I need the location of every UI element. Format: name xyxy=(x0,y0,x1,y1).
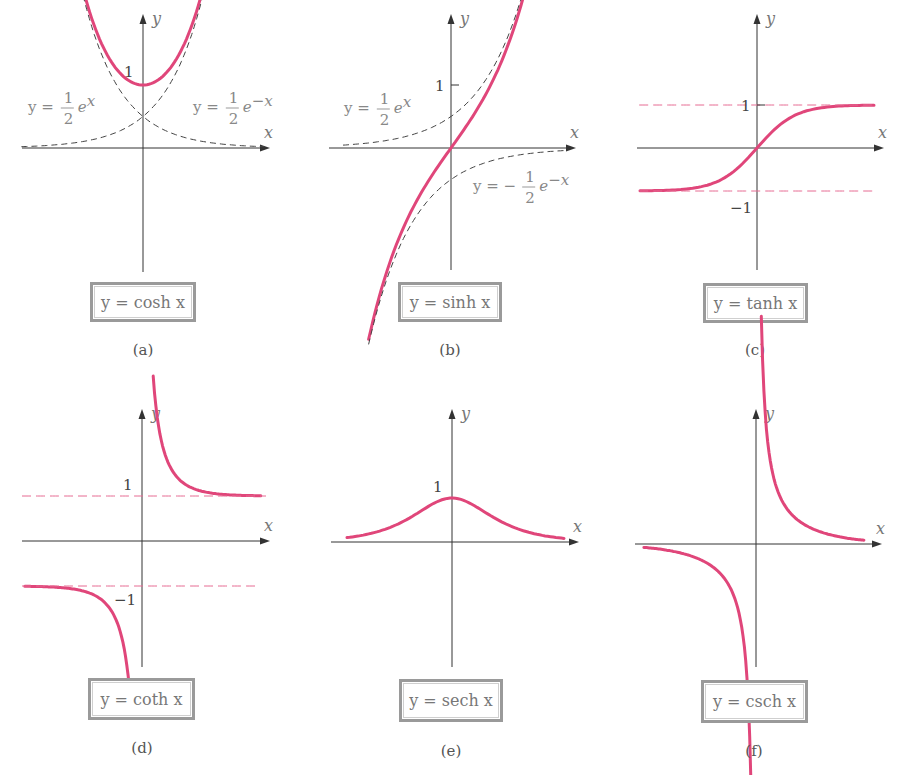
caption-d: (d) xyxy=(112,739,172,757)
annotation-half-exp-lhs: y = xyxy=(27,98,54,116)
coth-label-box: y = coth x xyxy=(88,678,195,720)
y-axis-label: y xyxy=(765,9,776,28)
annotation-neg-half-exp-neg-numerator: 1 xyxy=(525,168,535,186)
x-axis-arrow-icon xyxy=(874,145,884,152)
sech-label-box: y = sech x xyxy=(399,679,503,722)
y-axis-arrow-icon xyxy=(139,409,146,419)
series-sech-curve xyxy=(347,498,564,538)
sech-plot: xy1 xyxy=(299,395,598,725)
sech-label: y = sech x xyxy=(409,691,493,710)
coth-plot: xy1−1 xyxy=(0,395,299,725)
caption-e: (e) xyxy=(421,742,481,760)
tanh-label-box: y = tanh x xyxy=(703,283,808,323)
y-tick-label-1: 1 xyxy=(741,97,751,115)
y-axis-label: y xyxy=(460,404,471,423)
x-axis-label: x xyxy=(876,519,885,538)
y-axis-arrow-icon xyxy=(140,14,147,24)
x-axis-label: x xyxy=(264,516,273,535)
tanh-label: y = tanh x xyxy=(714,294,797,313)
caption-b: (b) xyxy=(420,341,480,359)
cosh-label-box: y = cosh x xyxy=(90,282,196,322)
annotation-half-exp-e: e xyxy=(78,98,87,116)
x-axis-arrow-icon xyxy=(872,541,882,548)
panel-sech: xy1 y = sech x (e) xyxy=(299,395,598,775)
y-tick-label-1: 1 xyxy=(123,476,133,494)
annotation-neg-half-exp-neg-exponent: −x xyxy=(548,171,570,189)
annotation-half-exp-neg-denominator: 2 xyxy=(229,110,239,128)
annotation-half-exp-numerator: 1 xyxy=(64,89,74,107)
csch-label-box: y = csch x xyxy=(701,680,808,723)
caption-a: (a) xyxy=(113,341,173,359)
csch-plot: xy xyxy=(597,395,897,725)
y-tick-label-1: 1 xyxy=(435,77,445,95)
annotation-half-exp-neg: y = 12e−x xyxy=(192,89,273,128)
y-axis-arrow-icon xyxy=(448,14,455,24)
csch-label: y = csch x xyxy=(713,692,796,711)
y-axis-label: y xyxy=(151,9,162,28)
panel-tanh: xy1−1 y = tanh x (c) xyxy=(597,0,897,380)
y-tick-label-1: 1 xyxy=(124,63,134,81)
x-axis-label: x xyxy=(573,517,582,536)
annotation-half-exp-neg-e: e xyxy=(243,98,252,116)
annotation-half-exp-exponent: x xyxy=(87,92,96,110)
x-axis-arrow-icon xyxy=(566,145,576,152)
tanh-plot: xy1−1 xyxy=(597,0,897,330)
series-coth-curve xyxy=(153,376,261,496)
caption-f: (f) xyxy=(724,742,784,760)
x-axis-label: x xyxy=(264,123,273,142)
y-axis-arrow-icon xyxy=(449,409,456,419)
cosh-plot: xy1y = 12exy = 12e−x xyxy=(0,0,299,330)
panel-cosh: xy1y = 12exy = 12e−x y = cosh x (a) xyxy=(0,0,299,380)
annotation-neg-half-exp-neg: y = − 12e−x xyxy=(472,168,570,207)
y-axis-label: y xyxy=(459,9,470,28)
annotation-half-exp-neg-lhs: y = xyxy=(192,98,219,116)
coth-label: y = coth x xyxy=(100,690,182,709)
annotation-neg-half-exp-neg-denominator: 2 xyxy=(525,189,535,207)
series-halfexp-asymptote xyxy=(343,0,540,145)
annotation-half-exp-numerator: 1 xyxy=(380,90,390,108)
y-tick-label-neg1: −1 xyxy=(114,591,136,609)
y-tick-label-1: 1 xyxy=(433,478,443,496)
annotation-half-exp-exponent: x xyxy=(403,93,412,111)
annotation-neg-half-exp-neg-e: e xyxy=(539,177,548,195)
sinh-label: y = sinh x xyxy=(410,293,491,312)
y-tick-label-neg1: −1 xyxy=(730,199,752,217)
x-axis-label: x xyxy=(570,123,579,142)
series-csch-curve xyxy=(644,547,751,775)
x-axis-arrow-icon xyxy=(569,539,579,546)
annotation-neg-half-exp-neg-lhs: y = − xyxy=(472,177,516,195)
panel-csch: xy y = csch x (f) xyxy=(597,395,897,775)
annotation-half-exp: y = 12ex xyxy=(343,90,412,129)
annotation-half-exp-denominator: 2 xyxy=(380,111,390,129)
annotation-half-exp-neg-numerator: 1 xyxy=(229,89,239,107)
caption-c: (c) xyxy=(725,341,785,359)
y-axis-arrow-icon xyxy=(753,409,760,419)
annotation-half-exp: y = 12ex xyxy=(27,89,96,128)
cosh-label: y = cosh x xyxy=(101,293,185,312)
sinh-plot: xy1y = 12exy = − 12e−x xyxy=(299,0,598,330)
panel-sinh: xy1y = 12exy = − 12e−x y = sinh x (b) xyxy=(299,0,598,380)
x-axis-arrow-icon xyxy=(260,538,270,545)
x-axis-arrow-icon xyxy=(260,145,270,152)
x-axis-label: x xyxy=(878,123,887,142)
annotation-half-exp-denominator: 2 xyxy=(64,110,74,128)
y-axis-arrow-icon xyxy=(754,14,761,24)
annotation-half-exp-neg-exponent: −x xyxy=(252,92,274,110)
panel-coth: xy1−1 y = coth x (d) xyxy=(0,395,299,775)
annotation-half-exp-lhs: y = xyxy=(343,99,370,117)
annotation-half-exp-e: e xyxy=(394,99,403,117)
sinh-label-box: y = sinh x xyxy=(398,282,502,322)
